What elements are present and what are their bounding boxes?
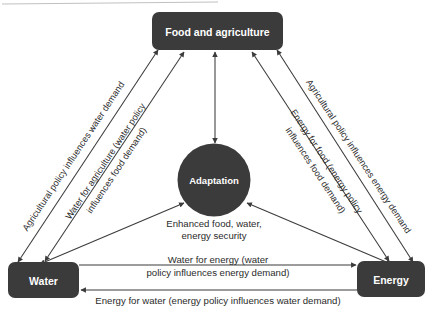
node-adaptation-label: Adaptation — [189, 175, 239, 186]
scan-artifact-line — [2, 2, 218, 4]
edge-food-energy-outer — [277, 50, 413, 262]
node-food-and-agriculture[interactable]: Food and agriculture — [152, 12, 283, 50]
edge-label-water-energy-line2: policy influences energy demand) — [147, 267, 290, 278]
edge-energy-adaptation — [247, 203, 391, 264]
node-energy[interactable]: Energy — [357, 261, 425, 297]
adaptation-note-line1: Enhanced food, water, — [166, 218, 261, 229]
node-water[interactable]: Water — [8, 262, 79, 298]
edge-label-energy-water: Energy for water (energy policy influenc… — [95, 295, 340, 306]
nexus-diagram: Food and agriculture Water Energy Adapta… — [0, 0, 432, 313]
edge-food-water-outer — [18, 50, 158, 262]
node-food-label: Food and agriculture — [165, 26, 270, 38]
edge-label-water-energy-line1: Water for energy (water — [168, 254, 269, 265]
adaptation-note-line2: energy security — [181, 230, 246, 241]
edge-label-energy-food-inner-line1: Energy for food (energy policy — [289, 107, 365, 215]
node-water-label: Water — [29, 275, 58, 287]
edge-water-adaptation — [40, 203, 184, 264]
node-energy-label: Energy — [373, 274, 409, 286]
diagram-canvas: Food and agriculture Water Energy Adapta… — [0, 0, 432, 313]
node-adaptation[interactable]: Adaptation — [178, 144, 251, 217]
